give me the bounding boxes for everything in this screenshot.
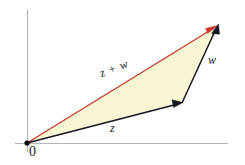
diagram-canvas — [0, 0, 245, 165]
label-vector-w: w — [208, 54, 216, 66]
vector-addition-diagram: z + w w z 0 — [0, 0, 245, 165]
label-vector-z: z — [110, 122, 115, 134]
label-origin: 0 — [29, 145, 36, 159]
